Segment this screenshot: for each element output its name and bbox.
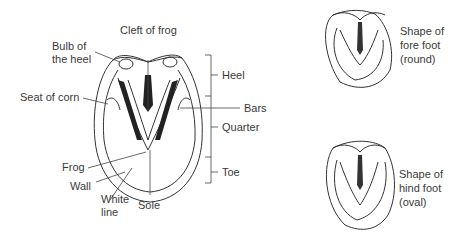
label-quarter: Quarter	[222, 121, 259, 134]
label-fore-foot-1: Shape of	[400, 25, 444, 38]
label-white-line-2: line	[101, 206, 118, 219]
label-wall: Wall	[70, 180, 91, 193]
label-bulb-of-heel-1: Bulb of	[52, 40, 86, 53]
label-toe: Toe	[222, 166, 240, 179]
label-white-line-1: White	[101, 193, 129, 206]
label-cleft-of-frog: Cleft of frog	[120, 24, 177, 37]
label-sole: Sole	[138, 199, 160, 212]
label-hind-foot-1: Shape of	[399, 168, 443, 181]
label-hind-foot-2: hind foot	[399, 182, 441, 195]
label-hind-foot-3: (oval)	[399, 196, 427, 209]
label-bulb-of-heel-2: the heel	[52, 53, 91, 66]
label-bars: Bars	[244, 102, 267, 115]
label-fore-foot-2: fore foot	[400, 39, 440, 52]
label-heel: Heel	[222, 69, 245, 82]
label-frog: Frog	[62, 161, 85, 174]
label-seat-of-corn: Seat of corn	[20, 91, 79, 104]
label-fore-foot-3: (round)	[400, 53, 435, 66]
